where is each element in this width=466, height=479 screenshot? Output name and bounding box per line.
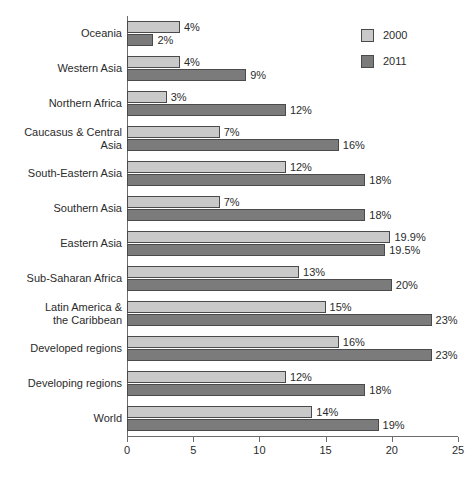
bar-value-label: 20% <box>396 279 418 291</box>
plot-area: 0510152025 4%2%4%9%3%12%7%16%12%18%7%18%… <box>127 16 458 436</box>
bar-2000 <box>127 56 180 68</box>
x-tick-label: 15 <box>319 444 331 456</box>
bar-2000 <box>127 371 286 383</box>
bar-2011 <box>127 279 392 291</box>
bar-2000 <box>127 126 220 138</box>
bar-2011 <box>127 139 339 151</box>
bar-value-label: 13% <box>303 266 325 278</box>
category-label: Latin America & the Caribbean <box>0 301 122 327</box>
bar-value-label: 23% <box>436 349 458 361</box>
bar-2011 <box>127 174 365 186</box>
x-tick-mark <box>193 437 194 442</box>
x-tick-label: 25 <box>452 444 464 456</box>
x-tick-mark <box>458 437 459 442</box>
bar-value-label: 7% <box>224 126 240 138</box>
bar-value-label: 4% <box>184 56 200 68</box>
bar-value-label: 15% <box>330 301 352 313</box>
bar-2011 <box>127 314 432 326</box>
category-label: Eastern Asia <box>0 237 122 250</box>
category-label: Western Asia <box>0 62 122 75</box>
bar-2011 <box>127 69 246 81</box>
bar-2000 <box>127 406 312 418</box>
bar-value-label: 23% <box>436 314 458 326</box>
category-label: Southern Asia <box>0 202 122 215</box>
bar-value-label: 16% <box>343 139 365 151</box>
bar-value-label: 18% <box>369 384 391 396</box>
bar-2011 <box>127 209 365 221</box>
category-label: Northern Africa <box>0 97 122 110</box>
bar-2011 <box>127 419 379 431</box>
category-label: Caucasus & Central Asia <box>0 126 122 152</box>
bar-value-label: 3% <box>171 91 187 103</box>
x-tick-mark <box>326 437 327 442</box>
x-tick-label: 5 <box>190 444 196 456</box>
bar-2000 <box>127 301 326 313</box>
bar-value-label: 19.9% <box>394 231 425 243</box>
bar-2000 <box>127 266 299 278</box>
bar-value-label: 4% <box>184 21 200 33</box>
bar-2011 <box>127 244 385 256</box>
category-label: Sub-Saharan Africa <box>0 272 122 285</box>
bar-value-label: 9% <box>250 69 266 81</box>
bar-2011 <box>127 104 286 116</box>
x-tick-label: 10 <box>253 444 265 456</box>
bar-value-label: 12% <box>290 371 312 383</box>
bar-value-label: 12% <box>290 104 312 116</box>
category-label: South-Eastern Asia <box>0 167 122 180</box>
bar-2011 <box>127 349 432 361</box>
bar-2000 <box>127 91 167 103</box>
bar-value-label: 7% <box>224 196 240 208</box>
bar-2000 <box>127 196 220 208</box>
bar-2011 <box>127 34 153 46</box>
bar-value-label: 2% <box>157 34 173 46</box>
bar-value-label: 18% <box>369 209 391 221</box>
bar-value-label: 19% <box>383 419 405 431</box>
bar-2011 <box>127 384 365 396</box>
category-label: World <box>0 412 122 425</box>
category-label: Developed regions <box>0 342 122 355</box>
bar-2000 <box>127 231 390 243</box>
bar-value-label: 18% <box>369 174 391 186</box>
x-tick-mark <box>259 437 260 442</box>
category-label: Oceania <box>0 27 122 40</box>
bar-2000 <box>127 21 180 33</box>
bar-value-label: 19.5% <box>389 244 420 256</box>
x-tick-mark <box>127 437 128 442</box>
bar-2000 <box>127 336 339 348</box>
bar-value-label: 12% <box>290 161 312 173</box>
x-tick-label: 20 <box>386 444 398 456</box>
bar-value-label: 16% <box>343 336 365 348</box>
bar-value-label: 14% <box>316 406 338 418</box>
bar-2000 <box>127 161 286 173</box>
x-axis-line <box>127 436 458 437</box>
x-tick-mark <box>392 437 393 442</box>
category-label: Developing regions <box>0 377 122 390</box>
bar-chart: 2000 2011 0510152025 4%2%4%9%3%12%7%16%1… <box>0 0 466 479</box>
x-tick-label: 0 <box>124 444 130 456</box>
